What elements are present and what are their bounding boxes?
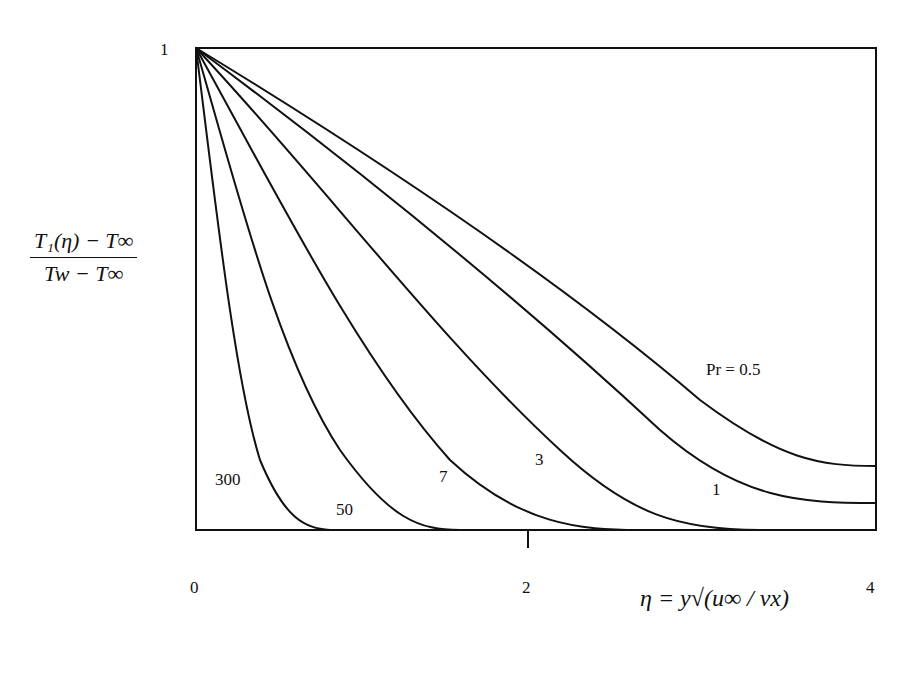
- x-tick-0: 0: [190, 578, 199, 598]
- x-tick-4: 4: [866, 578, 875, 598]
- curve-label-7: 7: [439, 467, 448, 487]
- x-tick-2: 2: [522, 578, 531, 598]
- fraction-bar: [30, 257, 137, 258]
- curve-pr-3: [196, 48, 760, 530]
- curve-pr-1: [196, 48, 876, 503]
- y-label-numerator: T₁(η) − T∞: [30, 228, 137, 254]
- x-axis-label: η = y√(u∞ / νx): [640, 585, 789, 612]
- curve-pr-0-5: [196, 48, 876, 466]
- curve-label-300: 300: [215, 470, 241, 490]
- curve-label-3: 3: [535, 450, 544, 470]
- chart-plot: [0, 0, 924, 683]
- y-axis-label: T₁(η) − T∞ Tw − T∞: [30, 228, 137, 287]
- y-label-denominator: Tw − T∞: [30, 261, 137, 287]
- curve-label-50: 50: [336, 500, 353, 520]
- curve-label-pr-0-5: Pr = 0.5: [706, 360, 760, 380]
- curve-label-1: 1: [712, 480, 721, 500]
- y-tick-1: 1: [160, 40, 169, 60]
